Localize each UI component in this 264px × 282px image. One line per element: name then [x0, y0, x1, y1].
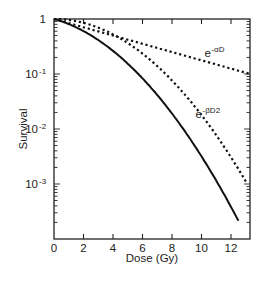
x-tick-label: 0 — [51, 242, 57, 254]
y-tick-label: 10 — [25, 178, 38, 190]
y-axis-tick-labels: 110-110-210-3 — [25, 13, 46, 190]
x-tick-label: 4 — [110, 242, 117, 254]
y-tick-label: 10 — [25, 68, 38, 80]
x-axis-label: Dose (Gy) — [126, 252, 179, 264]
y-tick-exponent: -1 — [39, 67, 47, 76]
survival-chart: 024681012 110-110-210-3 e-αDe-βD2 Dose (… — [0, 0, 264, 282]
x-tick-label: 12 — [225, 242, 238, 254]
y-tick-exponent: -3 — [39, 177, 47, 186]
x-tick-label: 2 — [80, 242, 86, 254]
curve-annotations: e-αDe-βD2 — [196, 45, 225, 119]
annotation-alpha: e — [204, 47, 210, 59]
y-tick-label: 1 — [40, 13, 46, 25]
x-tick-label: 10 — [195, 242, 208, 254]
component-curve — [54, 19, 247, 184]
annotation-exponent-alpha: -αD — [211, 45, 224, 54]
y-axis-label: Survival — [17, 109, 29, 150]
y-tick-exponent: -2 — [39, 122, 47, 131]
annotation-exponent-beta: -βD2 — [203, 106, 221, 115]
annotation-beta: e — [196, 108, 202, 120]
